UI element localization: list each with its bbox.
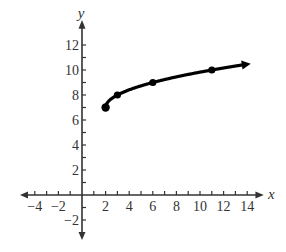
y-tick-label: 8 <box>72 88 79 103</box>
data-point <box>114 91 121 98</box>
y-tick-label: 10 <box>65 63 79 78</box>
y-axis-down-arrow-icon <box>79 232 86 240</box>
data-point <box>149 79 156 86</box>
x-tick-label: 6 <box>149 199 156 214</box>
x-axis-right-arrow-icon <box>255 192 263 199</box>
x-tick-label: −4 <box>27 199 42 214</box>
x-tick-label: 12 <box>217 199 231 214</box>
y-axis-label: y <box>76 5 85 21</box>
data-point <box>208 66 215 73</box>
curve <box>101 61 250 112</box>
x-axis-label: x <box>267 186 275 202</box>
y-tick-label: 4 <box>72 138 79 153</box>
y-axis-up-arrow-icon <box>79 20 86 29</box>
x-tick-label: 2 <box>102 199 109 214</box>
x-tick-label: 4 <box>126 199 133 214</box>
x-tick-label: −2 <box>51 199 66 214</box>
x-axis-left-arrow-icon <box>20 192 28 199</box>
x-tick-label: 14 <box>240 199 254 214</box>
data-point <box>101 103 109 111</box>
x-tick-label: 8 <box>173 199 180 214</box>
y-tick-label: 2 <box>72 163 79 178</box>
y-tick-label: −2 <box>64 213 79 228</box>
x-tick-label: 10 <box>193 199 207 214</box>
curve-end-arrow-icon <box>241 61 251 70</box>
y-tick-label: 12 <box>65 38 79 53</box>
function-curve <box>106 65 242 107</box>
function-graph: −4−22468101214−224681012xy <box>0 0 286 252</box>
y-tick-label: 6 <box>72 113 79 128</box>
